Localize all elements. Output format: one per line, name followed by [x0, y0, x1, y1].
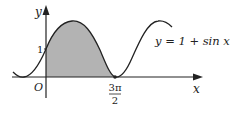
x-axis-arrow-icon: [193, 74, 203, 81]
y-axis-arrow-icon: [43, 5, 50, 15]
y-axis-label: y: [34, 5, 42, 19]
equation-label: y = 1 + sin x: [154, 34, 230, 48]
graph-figure: y x O 1 3π 2 y = 1 + sin x: [0, 0, 237, 114]
y-tick-label: 1: [37, 44, 43, 55]
origin-label: O: [34, 81, 43, 94]
x-tick-numerator: 3π: [109, 82, 122, 93]
x-tick-point: [113, 75, 117, 79]
x-tick-denominator: 2: [112, 95, 118, 106]
x-axis-label: x: [193, 82, 200, 96]
